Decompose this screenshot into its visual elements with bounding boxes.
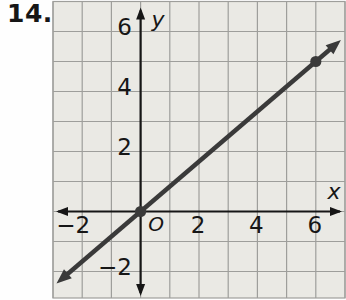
chart-layer: −2246642−2 (53, 2, 345, 299)
x-tick-label: 2 (191, 212, 206, 238)
y-tick-label: 4 (117, 74, 132, 100)
x-axis-label: x (326, 179, 341, 204)
worksheet-figure: 14. −2246642−2 x y O (0, 0, 346, 300)
marked-point (310, 56, 321, 67)
y-tick-label: 2 (117, 134, 132, 160)
origin-label: O (148, 212, 164, 236)
x-tick-label: −2 (56, 212, 90, 238)
y-axis-label: y (150, 7, 165, 32)
coordinate-graph: −2246642−2 x y O (0, 0, 346, 300)
y-tick-label: 6 (117, 14, 132, 40)
marked-point (135, 206, 146, 217)
x-tick-label: 4 (249, 212, 264, 238)
y-tick-label: −2 (98, 254, 132, 280)
x-tick-label: 6 (307, 212, 322, 238)
